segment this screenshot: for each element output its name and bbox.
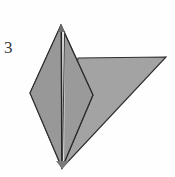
step-number-label: 3 [4,38,13,57]
origami-step-figure: 3 [0,0,175,177]
center-crease-line [61,26,62,168]
origami-diagram [0,0,175,177]
kite-left-half [30,25,62,168]
bottom-point [56,161,69,169]
